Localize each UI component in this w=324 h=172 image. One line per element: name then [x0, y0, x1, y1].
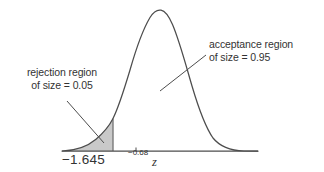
normal-distribution-figure: rejection region of size = 0.05 acceptan…: [0, 0, 324, 172]
acceptance-region-line-1: acceptance region: [209, 38, 293, 51]
rejection-region-shading: [62, 119, 113, 152]
axis-tick-label-main: −1.645: [62, 152, 105, 167]
axis-tick-label-secondary: −0.68: [128, 148, 148, 157]
rejection-region-line-2: of size = 0.05: [6, 79, 118, 92]
rejection-leader-line: [67, 101, 104, 143]
acceptance-region-annotation: acceptance region of size = 0.95: [209, 38, 293, 64]
rejection-region-annotation: rejection region of size = 0.05: [6, 66, 118, 92]
rejection-region-line-1: rejection region: [6, 66, 118, 79]
acceptance-region-line-2: of size = 0.95: [209, 51, 293, 64]
axis-variable-label: z: [152, 155, 157, 170]
acceptance-leader-line: [160, 55, 206, 91]
